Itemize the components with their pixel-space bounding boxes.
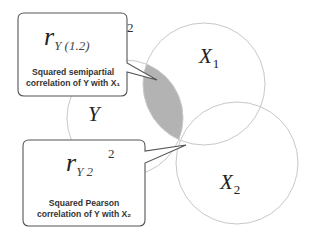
caption-semipartial: Squared semipartial correlation of Y wit… [20, 67, 126, 89]
formula-pearson: rY 2 2 [66, 148, 93, 178]
label-y: Y [88, 102, 100, 127]
venn-diagram: Y X1 X2 rY (1.2) 2 Squared semipartial c… [0, 0, 315, 241]
shaded-semipartial-region [143, 23, 265, 145]
formula-semipartial: rY (1.2) 2 [44, 22, 90, 52]
label-x2: X2 [220, 170, 240, 198]
caption-pearson: Squared Pearson correlation of Y with X₂ [25, 198, 143, 220]
circle-x2 [176, 102, 298, 224]
label-x1: X1 [199, 44, 219, 72]
